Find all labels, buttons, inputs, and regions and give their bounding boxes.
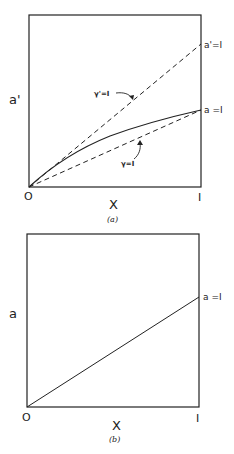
diagram-canvas: γ'=I γ=I a'=I a =I a' O I X (a) a =I a O… <box>0 0 234 454</box>
panel-a: γ'=I γ=I a'=I a =I a' O I X (a) <box>9 15 223 224</box>
gamma-label: γ=I <box>121 160 134 168</box>
gamma-prime-label: γ'=I <box>94 90 109 98</box>
caption-b: (b) <box>109 435 120 444</box>
panel-b: a =I a O I X (b) <box>9 234 222 444</box>
x-axis-label-b: X <box>112 418 121 433</box>
gamma-arrow <box>134 143 140 159</box>
gamma-arrowhead-icon <box>137 140 143 145</box>
x-end-label-b: I <box>196 412 199 425</box>
origin-label-a: O <box>24 190 33 203</box>
a-equals-1-label-b: a =I <box>203 292 222 302</box>
a-line <box>27 297 199 407</box>
a-equals-1-label-a: a =I <box>204 105 223 115</box>
a-prime-equals-1-label: a'=I <box>204 40 222 50</box>
x-end-label-a: I <box>198 191 201 204</box>
gamma-prime-arrow <box>116 93 132 98</box>
caption-a: (a) <box>107 215 118 224</box>
x-axis-label-a: X <box>109 197 118 212</box>
gamma-dashed-line <box>29 110 201 187</box>
panel-a-frame <box>29 15 201 187</box>
y-axis-label-a-prime: a' <box>9 92 21 107</box>
panel-b-frame <box>27 234 199 407</box>
y-axis-label-a: a <box>9 306 17 321</box>
origin-label-b: O <box>22 411 31 424</box>
